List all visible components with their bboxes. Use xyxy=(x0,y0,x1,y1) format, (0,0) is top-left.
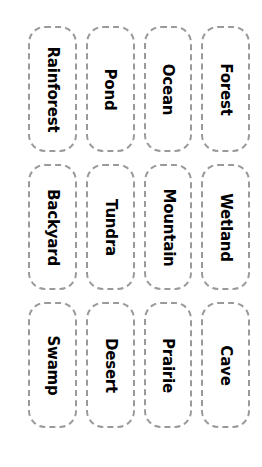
habitat-card-swamp[interactable]: Swamp xyxy=(28,302,77,428)
habitat-card-desert[interactable]: Desert xyxy=(86,302,135,428)
habitat-card-label: Wetland xyxy=(218,193,233,262)
habitat-card-label: Prairie xyxy=(160,338,175,393)
habitat-card-label: Cave xyxy=(218,345,233,385)
card-row: Backyard Tundra Mountain Wetland xyxy=(28,164,250,290)
habitat-card-label: Tundra xyxy=(103,199,118,256)
habitat-card-label: Pond xyxy=(103,68,118,110)
habitat-card-rainforest[interactable]: Rainforest xyxy=(28,26,77,152)
habitat-card-label: Backyard xyxy=(45,189,60,266)
habitat-card-wetland[interactable]: Wetland xyxy=(201,164,250,290)
habitat-card-label: Desert xyxy=(103,337,118,392)
habitat-card-pond[interactable]: Pond xyxy=(86,26,135,152)
habitat-card-grid: Rainforest Pond Ocean Forest Backyard Tu… xyxy=(28,26,250,430)
habitat-card-forest[interactable]: Forest xyxy=(201,26,250,152)
habitat-card-ocean[interactable]: Ocean xyxy=(144,26,193,152)
habitat-card-label: Mountain xyxy=(160,188,175,266)
habitat-card-label: Ocean xyxy=(160,63,175,115)
habitat-card-label: Swamp xyxy=(45,335,60,395)
habitat-card-label: Forest xyxy=(218,63,233,115)
habitat-card-prairie[interactable]: Prairie xyxy=(144,302,193,428)
habitat-card-cave[interactable]: Cave xyxy=(201,302,250,428)
card-row: Swamp Desert Prairie Cave xyxy=(28,302,250,428)
habitat-card-label: Rainforest xyxy=(45,46,60,132)
habitat-card-mountain[interactable]: Mountain xyxy=(144,164,193,290)
habitat-card-tundra[interactable]: Tundra xyxy=(86,164,135,290)
card-row: Rainforest Pond Ocean Forest xyxy=(28,26,250,152)
habitat-card-backyard[interactable]: Backyard xyxy=(28,164,77,290)
